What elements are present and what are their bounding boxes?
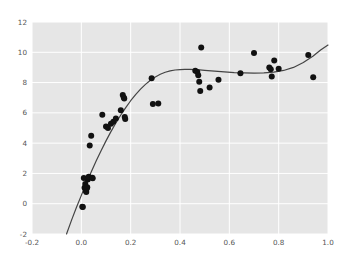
y-tick-label: -2	[20, 230, 27, 239]
x-tick-label: 1.0	[322, 238, 334, 247]
data-point	[197, 88, 203, 94]
y-tick-label: 12	[18, 18, 27, 27]
data-point	[196, 79, 202, 85]
data-point	[215, 77, 221, 83]
data-point	[149, 75, 155, 81]
x-tick-label: 0.0	[76, 238, 88, 247]
y-tick-label: 8	[22, 78, 27, 87]
data-point	[84, 184, 90, 190]
data-point	[310, 74, 316, 80]
data-point	[268, 66, 274, 72]
data-point	[155, 100, 161, 106]
data-point	[269, 74, 275, 80]
y-tick-label: 4	[22, 139, 27, 148]
data-point	[150, 101, 156, 107]
data-point	[113, 116, 119, 122]
x-tick-label: -0.2	[25, 238, 39, 247]
data-point	[195, 72, 201, 78]
data-point	[122, 116, 128, 122]
data-point	[90, 175, 96, 181]
x-tick-label: 0.6	[224, 238, 236, 247]
y-tick-label: 6	[22, 108, 27, 117]
x-tick-label: 0.4	[174, 238, 186, 247]
data-point	[118, 107, 124, 113]
data-point	[198, 44, 204, 50]
data-point	[87, 142, 93, 148]
chart-figure: -0.20.00.20.40.60.81.0 -2024681012	[0, 0, 343, 258]
data-point	[80, 204, 86, 210]
x-tick-label: 0.2	[125, 238, 136, 247]
y-tick-label: 0	[22, 199, 27, 208]
data-point	[121, 95, 127, 101]
data-point	[237, 70, 243, 76]
data-point	[99, 112, 105, 118]
y-tick-label: 10	[18, 48, 28, 57]
data-point	[88, 133, 94, 139]
data-point	[251, 50, 257, 56]
data-point	[276, 66, 282, 72]
scatter-plot: -0.20.00.20.40.60.81.0 -2024681012	[0, 0, 343, 258]
x-tick-label: 0.8	[273, 238, 285, 247]
data-point	[207, 84, 213, 90]
data-point	[271, 58, 277, 64]
data-point	[305, 52, 311, 58]
y-tick-label: 2	[22, 169, 27, 178]
